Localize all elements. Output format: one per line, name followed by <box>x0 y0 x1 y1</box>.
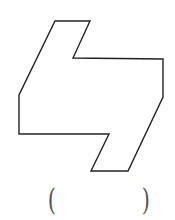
geometry-figure <box>0 0 175 180</box>
answer-blank[interactable]: ( ) <box>0 180 175 220</box>
right-parenthesis: ) <box>142 182 150 218</box>
left-parenthesis: ( <box>48 182 56 218</box>
polygon-outline <box>19 21 163 171</box>
polygon-shape <box>0 0 175 180</box>
